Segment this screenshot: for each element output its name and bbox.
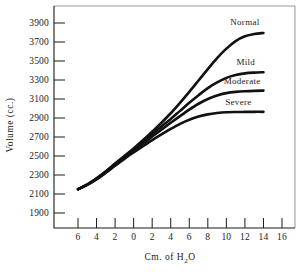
y-tick-label-3100: 3100	[29, 94, 49, 104]
series-label-mild: Mild	[236, 57, 255, 67]
series-label-normal: Normal	[230, 17, 259, 27]
y-tick-label-3500: 3500	[29, 56, 49, 66]
y-tick-label-2500: 2500	[29, 151, 49, 161]
y-tick-label-2900: 2900	[29, 113, 49, 123]
x-tick-label-6: 6	[187, 232, 192, 242]
x-tick-label-11: 16	[277, 232, 287, 242]
x-axis-title-post: O	[188, 252, 195, 262]
x-tick-label-3: 0	[131, 232, 136, 242]
y-tick-label-3300: 3300	[29, 75, 49, 85]
series-label-severe: Severe	[225, 97, 251, 107]
x-tick-label-9: 12	[240, 232, 250, 242]
y-tick-label-3900: 3900	[29, 18, 49, 28]
spirometry-pressure-volume-chart: 1900210023002500270029003100330035003700…	[0, 0, 308, 272]
x-tick-label-2: 2	[113, 232, 118, 242]
x-tick-label-4: 2	[150, 232, 155, 242]
x-tick-label-0: 6	[76, 232, 81, 242]
x-tick-label-7: 8	[205, 232, 210, 242]
x-axis-title-pre: Cm. of H	[145, 252, 185, 262]
y-tick-label-2100: 2100	[29, 189, 49, 199]
x-tick-label-8: 10	[221, 232, 231, 242]
x-tick-label-10: 14	[259, 232, 269, 242]
y-axis-title: Volume (cc.)	[5, 98, 16, 153]
chart-figure: 1900210023002500270029003100330035003700…	[0, 0, 308, 272]
x-tick-label-5: 4	[168, 232, 173, 242]
y-tick-label-2300: 2300	[29, 170, 49, 180]
y-tick-label-3700: 3700	[29, 37, 49, 47]
series-label-moderate: Moderate	[224, 76, 261, 86]
y-tick-label-1900: 1900	[29, 208, 49, 218]
x-tick-label-1: 4	[94, 232, 99, 242]
y-tick-label-2700: 2700	[29, 132, 49, 142]
